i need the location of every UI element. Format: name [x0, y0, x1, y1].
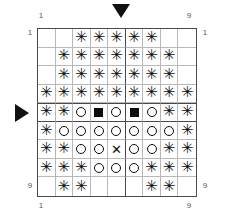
grid-cell[interactable]: ✳ — [161, 140, 179, 159]
grid-cell[interactable] — [126, 177, 144, 196]
grid-cell[interactable]: ✳ — [161, 66, 179, 85]
grid-cell[interactable]: ✳ — [126, 66, 144, 85]
grid-cell[interactable] — [56, 29, 74, 48]
grid-cell[interactable]: ✳ — [91, 48, 109, 67]
grid-cell[interactable] — [73, 103, 91, 122]
circle-glyph — [129, 126, 139, 136]
grid-cell[interactable]: ✳ — [108, 29, 126, 48]
grid-cell[interactable]: ✳ — [126, 29, 144, 48]
axis-label-left-top: 1 — [24, 29, 36, 37]
grid-cell[interactable]: ✳ — [73, 85, 91, 104]
star-glyph: ✳ — [181, 104, 194, 119]
grid-cell[interactable]: ✳ — [126, 85, 144, 104]
grid-cell[interactable]: ✳ — [56, 48, 74, 67]
grid-cell[interactable]: ✳ — [56, 103, 74, 122]
grid-cell[interactable] — [38, 177, 56, 196]
grid-cell[interactable]: ✳ — [161, 85, 179, 104]
grid-cell[interactable] — [38, 29, 56, 48]
grid-cell[interactable]: ✳ — [161, 159, 179, 178]
star-glyph: ✳ — [181, 85, 194, 100]
axis-label-top-left: 1 — [35, 12, 47, 20]
grid-cell[interactable] — [161, 122, 179, 141]
grid-cell[interactable]: ✳ — [108, 66, 126, 85]
grid-cell[interactable] — [108, 103, 126, 122]
grid-cell[interactable] — [178, 177, 196, 196]
grid-cell[interactable]: ✳ — [178, 122, 196, 141]
grid-cell[interactable]: ✳ — [38, 159, 56, 178]
grid-cell[interactable] — [91, 140, 109, 159]
grid-cell[interactable]: ✳ — [73, 177, 91, 196]
grid-cell[interactable]: ✳ — [161, 103, 179, 122]
grid-cell[interactable]: ✳ — [91, 66, 109, 85]
grid-cell[interactable] — [126, 159, 144, 178]
grid-cell[interactable] — [126, 103, 144, 122]
grid-cell[interactable]: ✳ — [56, 159, 74, 178]
grid-cell[interactable]: ✳ — [178, 103, 196, 122]
star-glyph: ✳ — [145, 179, 158, 194]
star-glyph: ✳ — [110, 67, 123, 82]
grid-cell[interactable]: ✕ — [108, 140, 126, 159]
grid-cell[interactable]: ✳ — [143, 177, 161, 196]
grid-cell[interactable] — [126, 122, 144, 141]
grid-cell[interactable] — [178, 66, 196, 85]
circle-glyph — [59, 126, 69, 136]
grid-cell[interactable] — [91, 103, 109, 122]
grid-cell[interactable]: ✳ — [56, 177, 74, 196]
grid-cell[interactable] — [178, 48, 196, 67]
circle-glyph — [94, 126, 104, 136]
filled-square-glyph — [130, 108, 139, 117]
grid-cell[interactable]: ✳ — [143, 159, 161, 178]
grid-cell[interactable] — [178, 29, 196, 48]
grid-cell[interactable]: ✳ — [161, 48, 179, 67]
grid-cell[interactable] — [143, 103, 161, 122]
grid-cell[interactable]: ✳ — [143, 85, 161, 104]
circle-glyph — [76, 126, 86, 136]
grid-cell[interactable] — [126, 140, 144, 159]
grid-cell[interactable] — [108, 122, 126, 141]
grid-cell[interactable] — [56, 122, 74, 141]
grid-cell[interactable] — [108, 177, 126, 196]
axis-label-bottom-right: 9 — [183, 202, 195, 210]
grid-cell[interactable]: ✳ — [73, 66, 91, 85]
grid-cell[interactable]: ✳ — [38, 103, 56, 122]
grid-cell[interactable]: ✳ — [108, 48, 126, 67]
grid-cell[interactable]: ✳ — [178, 159, 196, 178]
grid-cell[interactable] — [91, 122, 109, 141]
grid-cell[interactable]: ✳ — [91, 29, 109, 48]
grid-cell[interactable]: ✳ — [38, 85, 56, 104]
grid-cell[interactable]: ✳ — [56, 66, 74, 85]
star-glyph: ✳ — [40, 141, 53, 156]
grid-cell[interactable]: ✳ — [73, 29, 91, 48]
grid-cell[interactable]: ✳ — [38, 122, 56, 141]
grid-cell[interactable] — [91, 177, 109, 196]
grid-cell[interactable]: ✳ — [56, 140, 74, 159]
cross-glyph: ✕ — [111, 143, 122, 156]
grid-cell[interactable]: ✳ — [143, 48, 161, 67]
grid-cell[interactable] — [38, 66, 56, 85]
grid-cell[interactable]: ✳ — [38, 140, 56, 159]
grid-cell[interactable]: ✳ — [73, 159, 91, 178]
grid-cell[interactable]: ✳ — [161, 177, 179, 196]
grid-cell[interactable] — [143, 122, 161, 141]
star-glyph: ✳ — [40, 104, 53, 119]
grid-cell[interactable]: ✳ — [91, 85, 109, 104]
grid-cell[interactable]: ✳ — [178, 85, 196, 104]
pattern-grid: ✳✳✳✳✳✳✳✳✳✳✳✳✳✳✳✳✳✳✳✳✳✳✳✳✳✳✳✳✳✳✳✳✳✳✳✳✕✳✳✳… — [37, 28, 197, 197]
grid-cell[interactable] — [91, 159, 109, 178]
grid-cell[interactable]: ✳ — [178, 140, 196, 159]
grid-cell[interactable] — [73, 140, 91, 159]
grid-cell[interactable]: ✳ — [143, 66, 161, 85]
grid-cell[interactable] — [73, 122, 91, 141]
star-glyph: ✳ — [58, 160, 71, 175]
grid-cell[interactable] — [143, 140, 161, 159]
grid-cell[interactable]: ✳ — [56, 85, 74, 104]
grid-cell[interactable] — [108, 159, 126, 178]
grid-cell[interactable]: ✳ — [73, 48, 91, 67]
grid-cell[interactable]: ✳ — [108, 85, 126, 104]
grid-cell[interactable] — [161, 29, 179, 48]
grid-cell[interactable]: ✳ — [143, 29, 161, 48]
grid-cell[interactable] — [38, 48, 56, 67]
grid-cell[interactable]: ✳ — [126, 48, 144, 67]
star-glyph: ✳ — [145, 85, 158, 100]
star-glyph: ✳ — [128, 30, 141, 45]
